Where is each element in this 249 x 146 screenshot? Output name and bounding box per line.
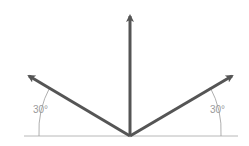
angle-label-left: 30° [33,105,48,115]
vector-diagram [0,0,249,146]
angle-label-right: 30° [210,105,225,115]
